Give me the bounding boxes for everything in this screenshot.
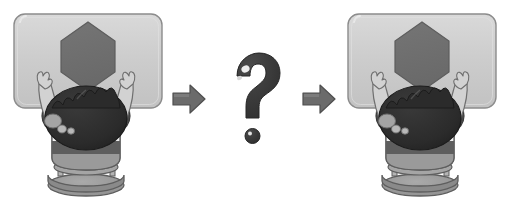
panel-before bbox=[0, 0, 170, 206]
arrow-2 bbox=[302, 83, 336, 119]
right-arrow-icon bbox=[302, 83, 336, 115]
question-mark-icon bbox=[228, 52, 282, 146]
scene-after bbox=[334, 0, 504, 206]
illustration-canvas: Child seated at table with hexagon shape… bbox=[0, 0, 510, 206]
right-arrow-icon bbox=[172, 83, 206, 115]
scene-before bbox=[0, 0, 170, 206]
arrow-1 bbox=[172, 83, 206, 119]
head-before bbox=[45, 86, 128, 150]
panel-after bbox=[334, 0, 504, 206]
question-mark bbox=[228, 52, 282, 150]
head-after bbox=[379, 86, 462, 150]
